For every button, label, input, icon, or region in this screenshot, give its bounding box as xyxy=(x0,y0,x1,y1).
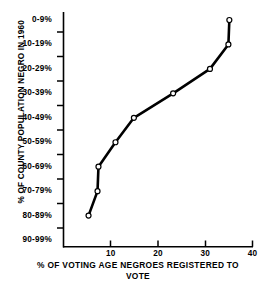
x-tick-label: 40 xyxy=(238,249,268,258)
data-series-line xyxy=(89,20,230,216)
data-point-marker xyxy=(95,189,100,194)
y-tick-label: 40-49% xyxy=(0,113,52,122)
y-axis-ticks xyxy=(57,32,64,228)
y-tick-label: 10-19% xyxy=(0,39,52,48)
data-point-marker xyxy=(131,115,136,120)
x-tick-label: 30 xyxy=(190,249,220,258)
data-point-marker xyxy=(171,91,176,96)
x-tick-label: 20 xyxy=(143,249,173,258)
y-tick-label: 50-59% xyxy=(0,137,52,146)
data-series-markers xyxy=(86,18,232,219)
data-point-marker xyxy=(207,66,212,71)
y-tick-label: 60-69% xyxy=(0,162,52,171)
y-axis-title: % OF COUNTY POPULATION NEGRO IN 1960 xyxy=(17,54,26,204)
x-tick-label: 10 xyxy=(96,249,126,258)
y-tick-label: 0-9% xyxy=(0,15,52,24)
x-axis-title-line-2: VOTE xyxy=(18,271,258,282)
data-point-marker xyxy=(86,213,91,218)
x-axis-title: % OF VOTING AGE NEGROES REGISTERED TO VO… xyxy=(18,260,258,281)
x-axis-ticks xyxy=(111,241,253,247)
data-point-marker xyxy=(227,18,232,23)
series-polyline xyxy=(89,20,230,216)
y-tick-label: 70-79% xyxy=(0,186,52,195)
y-tick-label: 20-29% xyxy=(0,64,52,73)
data-point-marker xyxy=(113,140,118,145)
y-tick-label: 90-99% xyxy=(0,235,52,244)
chart-figure: 0-9%10-19%20-29%30-39%40-49%50-59%60-69%… xyxy=(0,0,268,289)
y-tick-label: 30-39% xyxy=(0,88,52,97)
y-tick-label: 80-89% xyxy=(0,211,52,220)
x-axis-title-line-1: % OF VOTING AGE NEGROES REGISTERED TO xyxy=(18,260,258,271)
data-point-marker xyxy=(226,42,231,47)
data-point-marker xyxy=(96,164,101,169)
